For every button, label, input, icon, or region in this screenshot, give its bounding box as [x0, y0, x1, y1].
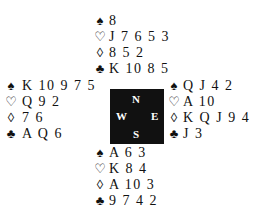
compass-west-label: W: [116, 111, 127, 122]
spade-icon: ♠: [93, 13, 107, 29]
heart-icon: ♡: [93, 161, 107, 177]
club-icon: ♣: [93, 193, 107, 209]
spade-icon: ♠: [4, 78, 18, 94]
spade-icon: ♠: [167, 78, 181, 94]
spade-icon: ♠: [93, 145, 107, 161]
heart-icon: ♡: [93, 29, 107, 45]
diamond-icon: ◊: [93, 177, 107, 193]
diamond-icon: ◊: [93, 45, 107, 61]
compass-south-label: S: [133, 129, 139, 140]
diamond-icon: ◊: [4, 110, 18, 126]
compass-box: N W E S: [110, 89, 164, 144]
heart-icon: ♡: [167, 94, 181, 110]
compass-north-label: N: [132, 94, 140, 105]
club-icon: ♣: [4, 126, 18, 142]
club-icon: ♣: [93, 61, 107, 77]
compass-east-label: E: [151, 111, 158, 122]
heart-icon: ♡: [4, 94, 18, 110]
club-icon: ♣: [167, 126, 181, 142]
diamond-icon: ◊: [167, 110, 181, 126]
